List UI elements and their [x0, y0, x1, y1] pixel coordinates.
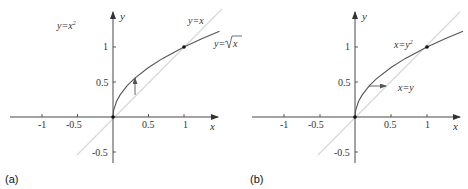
label-y-eq-sqrt-x: y= x: [213, 36, 242, 49]
y-axis-label: y: [361, 10, 367, 22]
y-tick-label: 1: [103, 41, 108, 52]
y-tick-label: 0.5: [338, 77, 351, 88]
x-axis-label: x: [452, 120, 458, 132]
x-tick-label: 1: [425, 119, 430, 130]
x-tick-label: 1: [183, 119, 188, 130]
y-tick-label: 0.5: [96, 77, 109, 88]
x-tick-label: -1: [280, 119, 288, 130]
point-origin: [111, 115, 115, 119]
x-tick-label: 0.5: [384, 119, 397, 130]
y-tick-label: -0.5: [334, 147, 350, 158]
x-tick-label: 0.5: [142, 119, 155, 130]
panel-label-b: (b): [250, 173, 263, 185]
x-tick-label: -0.5: [308, 119, 324, 130]
x-tick-label: -1: [38, 119, 46, 130]
y-tick-label: 1: [345, 41, 350, 52]
point-1-1: [182, 45, 186, 49]
figure: -1 -0.5 0.5 1 1 0.5 -0.5 x y y=x2 y=x y=…: [0, 0, 468, 189]
y-tick-label: -0.5: [92, 147, 108, 158]
x-axis-label: x: [209, 120, 215, 132]
panel-label-a: (a): [5, 173, 18, 185]
svg-text:x: x: [232, 38, 238, 49]
x-tick-label: -0.5: [66, 119, 82, 130]
label-x-eq-y2: x=y2: [393, 39, 413, 50]
point-origin: [353, 115, 357, 119]
curve-y-eq-sqrt-x: [113, 31, 220, 117]
y-axis-label: y: [119, 10, 125, 22]
label-x-eq-y: x=y: [397, 82, 414, 93]
label-y-eq-x: y=x: [187, 15, 204, 26]
panel-b: -1 -0.5 0.5 1 1 0.5 -0.5 x y x=y2 x=y (b…: [250, 10, 463, 185]
panel-a: -1 -0.5 0.5 1 1 0.5 -0.5 x y y=x2 y=x y=…: [5, 9, 242, 185]
label-y-eq-x2: y=x2: [56, 20, 76, 31]
point-1-1: [425, 45, 429, 49]
svg-text:y=: y=: [213, 38, 225, 49]
